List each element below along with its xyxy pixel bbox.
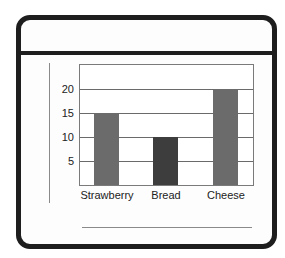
x-label-cheese: Cheese <box>191 189 261 202</box>
bar-bread <box>153 137 178 185</box>
bar-chart-plot <box>79 64 254 186</box>
bar-strawberry <box>94 113 119 185</box>
bar-cheese <box>213 89 238 185</box>
y-tick-20: 20 <box>52 83 74 95</box>
margin-line <box>49 63 50 203</box>
y-tick-5: 5 <box>52 155 74 167</box>
y-tick-10: 10 <box>52 131 74 143</box>
header-divider <box>16 51 277 55</box>
y-tick-15: 15 <box>52 107 74 119</box>
footer-line <box>82 227 252 228</box>
